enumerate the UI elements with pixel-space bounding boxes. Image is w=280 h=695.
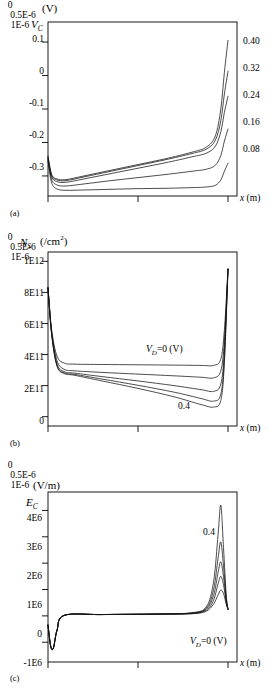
panel-c-ytick-3: 1E6 [8,600,42,610]
panel-c-y-variable: EC [26,496,38,511]
panel-b-ytick-3: 4E11 [8,352,44,362]
panel-a-ytick-3: -0.2 [14,130,44,140]
panel-c-annotation-vd0: VD=0 (V) [190,636,227,649]
panel-a-y-variable: VC [31,18,43,33]
panel-b-ytick-5: 0 [8,416,44,426]
panel-c-y-unit: (V/m) [33,479,60,491]
panel-b-y-unit: (/cm2) [40,234,67,247]
caption-sliver [8,686,188,693]
figure-root: (V) VC 0.1 0 -0.1 -0.2 -0.3 0 0.5E-6 1E-… [0,0,280,695]
panel-a: (V) VC 0.1 0 -0.1 -0.2 -0.3 0 0.5E-6 1E-… [0,0,280,232]
panel-a-ytick-2: -0.1 [14,98,44,108]
panel-c-ytick-0: 4E6 [8,513,42,523]
panel-a-ytick-4: -0.3 [14,162,44,172]
panel-a-ytick-1: 0 [14,66,44,76]
panel-a-ytick-0: 0.1 [14,34,44,44]
panel-a-curve-label-008: 0.08 [243,144,260,154]
panel-c-ytick-2: 2E6 [8,571,42,581]
panel-b-y-variable: NS [20,236,31,251]
panel-a-y-unit: (V) [42,2,57,14]
panel-b: (/cm2) NS 1E12 8E11 6E11 4E11 2E11 0 0 0… [0,232,280,460]
panel-b-ytick-2: 6E11 [8,320,44,330]
panel-c-ytick-1: 3E6 [8,542,42,552]
panel-c-x-title: x (m) [240,658,260,668]
panel-c-plot [0,460,280,695]
panel-a-curve-label-024: 0.24 [243,90,260,100]
panel-a-curve-label-040: 0.40 [243,36,260,46]
panel-b-ytick-1: 8E11 [8,288,44,298]
panel-b-tag: (b) [10,438,20,448]
panel-b-ytick-0: 1E12 [8,256,44,266]
panel-b-annotation-vd0: VD=0 (V) [146,344,183,357]
panel-a-tag: (a) [10,208,19,218]
panel-b-ytick-4: 2E11 [8,384,44,394]
panel-a-x-title: x (m) [240,193,260,203]
panel-c-ytick-4: 0 [8,629,42,639]
panel-c-tag: (c) [10,673,19,683]
panel-b-x-title: x (m) [240,423,260,433]
panel-c-annotation-04: 0.4 [203,527,215,537]
panel-a-curve-label-032: 0.32 [243,63,260,73]
panel-c-ytick-5: -1E6 [4,658,42,668]
panel-c: (V/m) EC 4E6 3E6 2E6 1E6 0 -1E6 0 0.5E-6… [0,460,280,695]
panel-b-annotation-04: 0.4 [178,401,190,411]
panel-a-curve-label-016: 0.16 [243,117,260,127]
